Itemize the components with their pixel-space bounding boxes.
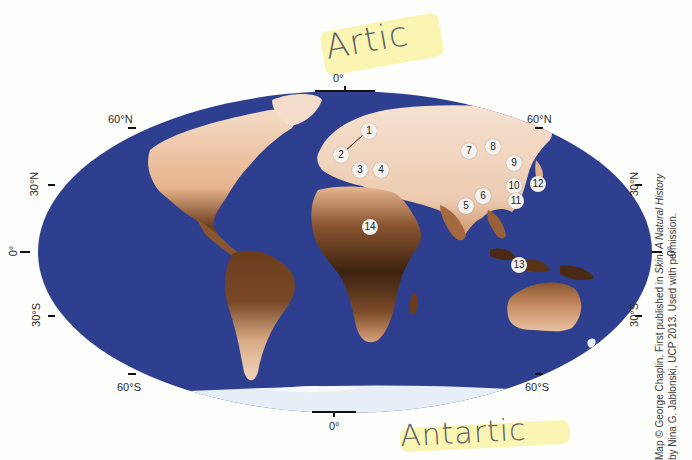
meridian-label-top: 0° <box>333 72 344 84</box>
lat-label-30s-left: 30°S <box>30 303 42 327</box>
meridian-label-bottom: 0° <box>329 420 340 432</box>
marker-3: 3 <box>352 162 368 178</box>
lat-label-60n-right: 60°N <box>527 113 552 125</box>
marker-2: 2 <box>333 147 349 163</box>
marker-9: 9 <box>506 155 522 171</box>
marker-10: 10 <box>506 178 522 194</box>
marker-5: 5 <box>458 198 474 214</box>
marker-7: 7 <box>461 143 477 159</box>
handwritten-antartic: Antartic <box>399 412 527 454</box>
marker-13: 13 <box>511 257 527 273</box>
marker-4: 4 <box>373 162 389 178</box>
lat-label-0-left: 0° <box>7 246 19 257</box>
credit-line-2: by Nina G. Jablonski, UCP 2013. Used wit… <box>666 90 679 460</box>
marker-14: 14 <box>362 219 378 235</box>
marker-6: 6 <box>475 188 491 204</box>
credit-line-1: Map © George Chaplin. First published in… <box>653 90 666 460</box>
map-credit: Map © George Chaplin. First published in… <box>653 90 687 460</box>
marker-1: 1 <box>361 123 377 139</box>
marker-11: 11 <box>508 193 524 209</box>
lat-label-60s-right: 60°S <box>525 381 549 393</box>
marker-12: 12 <box>530 176 546 192</box>
world-map: Artic Antartic 0° 0° 60°N 60°N 30°N 30°N… <box>0 0 692 460</box>
lat-label-30s-right: 30°S <box>628 303 640 327</box>
lat-label-60s-left: 60°S <box>117 381 141 393</box>
lat-label-30n-left: 30°N <box>28 172 40 197</box>
marker-8: 8 <box>485 139 501 155</box>
lat-label-30n-right: 30°N <box>628 172 640 197</box>
lat-label-60n-left: 60°N <box>108 113 133 125</box>
